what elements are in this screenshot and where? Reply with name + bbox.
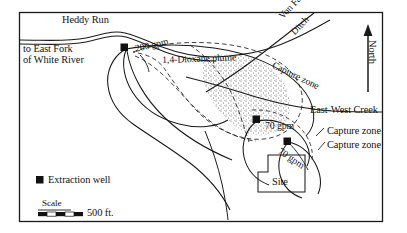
label-east-west-creek: East-West Creek: [310, 104, 378, 115]
label-flow-70-gpm-a: 70 gpm: [265, 121, 294, 132]
capture-zone-well-70b: [288, 142, 320, 194]
north-arrow-head: [364, 24, 373, 36]
extraction-well-marker-north: [121, 44, 129, 52]
capture-zone-leader-2: [318, 142, 325, 150]
scale-distance-label: 500 ft.: [87, 207, 113, 218]
legend-extraction-well-label: Extraction well: [48, 174, 110, 185]
extraction-well-marker-south: [284, 138, 292, 146]
label-to-east-fork: to East Fork: [23, 43, 73, 54]
label-site: Site: [272, 176, 288, 187]
label-capture-zone-2: Capture zone: [327, 139, 381, 150]
legend-extraction-well-marker: [36, 176, 44, 184]
label-of-white-river: of White River: [23, 54, 84, 65]
capture-zone-leader-1: [316, 128, 324, 136]
flow-200-leader: [140, 55, 149, 72]
scale-bar: [38, 212, 83, 216]
site-map-figure: Heddy Run to East Fork of White River 20…: [0, 0, 407, 233]
label-capture-zone-1: Capture zone: [327, 125, 381, 136]
label-north: North: [367, 40, 378, 64]
label-heddy-run: Heddy Run: [62, 14, 109, 25]
lower-stream: [205, 131, 228, 220]
extraction-well-marker-middle: [253, 116, 261, 124]
scale-title: Scale: [42, 199, 61, 209]
